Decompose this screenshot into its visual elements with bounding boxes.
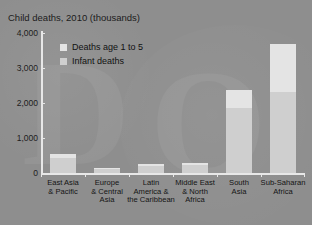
x-tick-mark	[41, 173, 42, 177]
y-tick-mark	[41, 138, 45, 139]
bar-segment-infant-deaths	[50, 158, 76, 173]
y-axis-tick-label: 0	[33, 168, 38, 178]
x-axis-category-label: Sub-Saharan Africa	[259, 179, 307, 196]
bar-segment-infant-deaths	[138, 166, 164, 173]
bar-latin-america-caribbean[interactable]	[138, 164, 164, 173]
bar-east-asia-pacific[interactable]	[50, 154, 76, 173]
chart-figure: D O ····· Child deaths, 2010 (thousands)…	[0, 0, 312, 225]
y-axis-tick-label: 3,000	[17, 63, 38, 73]
bar-segment-infant-deaths	[182, 165, 208, 173]
x-tick-mark	[129, 173, 130, 177]
bar-segment-infant-deaths	[270, 92, 296, 173]
legend-item-infant-deaths[interactable]: Infant deaths	[60, 55, 143, 67]
plot-area: 0 1,000 2,000 3,000 4,000 East Asia & Pa…	[0, 0, 312, 225]
bar-segment-deaths-age-1-to-5	[226, 90, 252, 108]
legend-item-deaths-age-1-to-5[interactable]: Deaths age 1 to 5	[60, 41, 143, 53]
y-axis-tick-label: 1,000	[17, 133, 38, 143]
x-tick-mark	[217, 173, 218, 177]
x-tick-mark	[304, 173, 305, 177]
x-tick-mark	[261, 173, 262, 177]
legend-swatch-icon	[60, 58, 67, 65]
bar-middle-east-north-africa[interactable]	[182, 163, 208, 173]
y-tick-mark	[41, 68, 45, 69]
bar-segment-infant-deaths	[226, 108, 252, 173]
x-axis-category-label: East Asia & Pacific	[41, 179, 85, 196]
x-axis-category-label: Latin America & the Caribbean	[127, 179, 175, 205]
bar-south-asia[interactable]	[226, 90, 252, 173]
bar-europe-central-asia[interactable]	[94, 168, 120, 173]
legend-swatch-icon	[60, 44, 67, 51]
bar-segment-deaths-age-1-to-5	[270, 44, 296, 92]
x-axis-category-label: South Asia	[217, 179, 261, 196]
legend-item-label: Infant deaths	[72, 56, 124, 66]
chart-legend: Deaths age 1 to 5 Infant deaths	[60, 41, 143, 69]
y-axis-tick-label: 2,000	[17, 98, 38, 108]
bar-sub-saharan-africa[interactable]	[270, 44, 296, 173]
legend-item-label: Deaths age 1 to 5	[72, 42, 143, 52]
x-tick-mark	[173, 173, 174, 177]
x-tick-mark	[85, 173, 86, 177]
y-axis-tick-label: 4,000	[17, 28, 38, 38]
x-axis-category-label: Europe & Central Asia	[85, 179, 129, 205]
y-tick-mark	[41, 103, 45, 104]
bar-segment-infant-deaths	[94, 169, 120, 173]
y-tick-mark	[41, 33, 45, 34]
x-axis-category-label: Middle East & North Africa	[171, 179, 219, 205]
